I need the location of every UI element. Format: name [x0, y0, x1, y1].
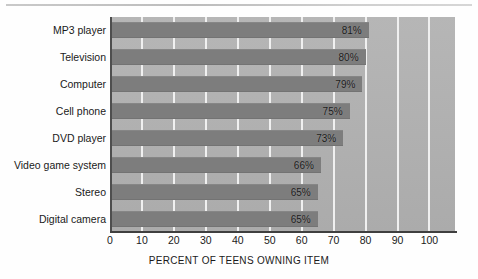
x-tick-30: 30: [200, 234, 212, 246]
bar-value-label: 66%: [294, 159, 314, 170]
bars-group: 81%80%79%75%73%66%65%65%: [110, 17, 455, 232]
bar: [110, 211, 318, 227]
category-label-mp3-player: MP3 player: [0, 22, 106, 38]
bar-row: 79%: [110, 76, 455, 92]
bar-value-label: 65%: [291, 213, 311, 224]
bar-row: 81%: [110, 22, 455, 38]
x-tick-50: 50: [264, 234, 276, 246]
bar: [110, 184, 318, 200]
x-axis-tick-labels: 0102030405060708090100: [0, 234, 478, 250]
plot-area: 81%80%79%75%73%66%65%65%: [110, 17, 455, 232]
x-tick-40: 40: [232, 234, 244, 246]
bar: [110, 103, 350, 119]
x-tick-100: 100: [421, 234, 439, 246]
y-axis-line: [110, 17, 112, 233]
bar: [110, 22, 369, 38]
bar-row: 75%: [110, 103, 455, 119]
bar-value-label: 80%: [339, 52, 359, 63]
x-tick-0: 0: [107, 234, 113, 246]
bar-row: 65%: [110, 211, 455, 227]
category-label-digital-camera: Digital camera: [0, 211, 106, 227]
bar-value-label: 73%: [316, 132, 336, 143]
category-label-cell-phone: Cell phone: [0, 103, 106, 119]
bar: [110, 49, 366, 65]
x-tick-20: 20: [168, 234, 180, 246]
bar-value-label: 75%: [323, 106, 343, 117]
x-tick-10: 10: [136, 234, 148, 246]
category-label-television: Television: [0, 49, 106, 65]
x-axis-line: [110, 231, 457, 233]
category-label-computer: Computer: [0, 76, 106, 92]
category-label-stereo: Stereo: [0, 184, 106, 200]
bar-row: 65%: [110, 184, 455, 200]
category-label-dvd-player: DVD player: [0, 130, 106, 146]
y-axis-category-labels: MP3 playerTelevisionComputerCell phoneDV…: [0, 17, 106, 232]
bar-row: 73%: [110, 130, 455, 146]
bar: [110, 157, 321, 173]
bar-row: 80%: [110, 49, 455, 65]
bar: [110, 76, 362, 92]
bar-value-label: 79%: [335, 79, 355, 90]
x-tick-80: 80: [360, 234, 372, 246]
chart-container: 81%80%79%75%73%66%65%65% MP3 playerTelev…: [0, 0, 478, 279]
bar-row: 66%: [110, 157, 455, 173]
bar-value-label: 81%: [342, 25, 362, 36]
category-label-video-game-system: Video game system: [0, 157, 106, 173]
bar-value-label: 65%: [291, 186, 311, 197]
x-tick-60: 60: [296, 234, 308, 246]
x-axis-title: PERCENT OF TEENS OWNING ITEM: [0, 255, 478, 266]
top-divider-rule: [6, 4, 472, 6]
bar: [110, 130, 343, 146]
x-tick-90: 90: [392, 234, 404, 246]
x-tick-70: 70: [328, 234, 340, 246]
